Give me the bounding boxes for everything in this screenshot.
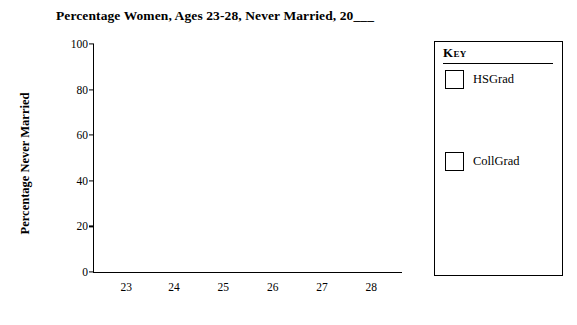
x-tick-27: 27 <box>316 281 328 293</box>
y-tick-100: 100 <box>71 38 88 50</box>
y-tick-20: 20 <box>77 220 89 232</box>
plot-area: 0 20 40 60 80 100 23 24 25 26 27 28 <box>93 44 402 273</box>
x-tick-24: 24 <box>168 281 180 293</box>
legend-title-divider <box>443 63 553 64</box>
x-tick-25: 25 <box>218 281 230 293</box>
x-tick-28: 28 <box>365 281 377 293</box>
legend-label-hsgrad: HSGrad <box>473 72 514 87</box>
x-tick-23: 23 <box>121 281 133 293</box>
legend-entry-hsgrad: HSGrad <box>445 70 514 89</box>
legend-label-collgrad: CollGrad <box>473 154 520 169</box>
x-tick-26: 26 <box>267 281 279 293</box>
y-tick-40: 40 <box>77 175 89 187</box>
chart-container: Percentage Women, Ages 23-28, Never Marr… <box>0 0 577 325</box>
y-axis-label-text: Percentage Never Married <box>19 92 34 234</box>
legend-swatch-hsgrad <box>445 70 464 89</box>
y-tick-0: 0 <box>82 266 88 278</box>
legend: Key HSGrad CollGrad <box>434 41 563 276</box>
y-axis-label: Percentage Never Married <box>14 58 38 268</box>
chart-title: Percentage Women, Ages 23-28, Never Marr… <box>0 8 430 24</box>
legend-swatch-collgrad <box>445 152 464 171</box>
y-tick-60: 60 <box>77 129 89 141</box>
legend-title: Key <box>443 45 467 61</box>
y-tick-80: 80 <box>77 84 89 96</box>
legend-entry-collgrad: CollGrad <box>445 152 520 171</box>
